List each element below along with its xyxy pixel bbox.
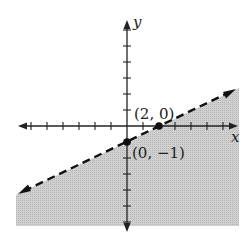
y-axis-label: y [132,13,142,31]
y-axis-down-arrow-icon [124,223,131,232]
x-axis-label: x [231,128,240,146]
point-label-2-0: (2, 0) [134,105,174,123]
inequality-graph: y x (2, 0) (0, −1) [0,0,247,244]
point-label-0-neg1: (0, −1) [132,144,185,162]
point-0-neg1 [123,138,131,146]
point-2-0 [155,122,163,130]
y-axis-up-arrow-icon [124,20,131,29]
x-axis-left-arrow-icon [18,123,27,130]
